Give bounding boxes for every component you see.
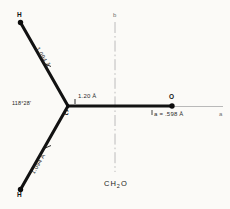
caption-formula-base: CH	[104, 179, 117, 188]
atom-label-carbon: C	[64, 110, 69, 117]
bond-c-h-bottom	[21, 106, 69, 190]
atom-label-h-bottom: H	[17, 192, 22, 199]
axis-label-b: b	[113, 12, 117, 18]
bond-length-c-o: 1.20 Å	[78, 93, 97, 99]
figure-caption: CH2O	[104, 180, 128, 188]
molecular-structure-figure: H C O H 1.094 Å 1.20 Å 1.094 Å 118°28' a…	[0, 0, 230, 209]
bond-angle-hch: 118°28'	[12, 101, 31, 106]
atom-dot-h-top	[18, 20, 23, 25]
atom-dot-oxygen	[169, 103, 174, 108]
atom-dot-carbon	[66, 104, 69, 107]
figure-canvas	[0, 0, 230, 209]
atom-label-h-top: H	[17, 12, 22, 19]
caption-formula-tail: O	[121, 179, 128, 188]
axis-label-a: a	[219, 111, 223, 117]
annotation-a-offset: a = .598 Å	[154, 111, 184, 117]
atom-label-oxygen: O	[169, 94, 174, 101]
caption-formula-sub: 2	[117, 183, 121, 189]
